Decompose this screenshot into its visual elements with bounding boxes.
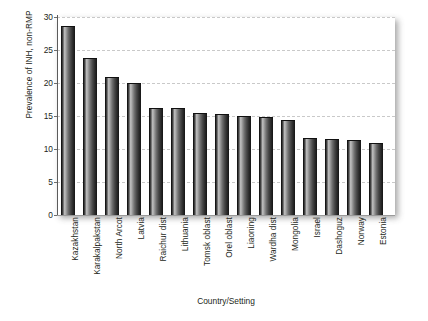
x-tick-label: Norway [357, 217, 366, 245]
y-tick-label: 30 [44, 12, 53, 22]
bar [171, 108, 185, 215]
x-tick-label: Wardha dist [269, 217, 278, 261]
y-tick-label: 0 [48, 210, 53, 220]
bar [303, 138, 317, 215]
bar [237, 116, 251, 215]
x-tick-label: Kazakhstan [71, 217, 80, 261]
bar [281, 120, 295, 215]
x-tick-label: Tomsk oblast [203, 217, 212, 266]
bar [259, 117, 273, 215]
bar [149, 108, 163, 215]
y-tick-mark [54, 215, 57, 216]
bar [347, 140, 361, 215]
x-tick-label: Lithuania [181, 217, 190, 251]
bar [369, 143, 383, 215]
plot-inner: 051015202530 [57, 17, 395, 215]
x-tick-label: Israel [313, 217, 322, 238]
x-tick-label: Latvia [137, 217, 146, 239]
y-tick-label: 15 [44, 111, 53, 121]
y-tick-label: 5 [48, 177, 53, 187]
x-tick-label: Raichur dist [159, 217, 168, 261]
x-tick-label: Mongolia [291, 217, 300, 251]
x-tick-label: Dashoguz [335, 217, 344, 255]
y-tick-label: 25 [44, 45, 53, 55]
bar [325, 139, 339, 215]
bar [215, 114, 229, 215]
x-axis-labels-group: KazakhstanKarakalpakstanNorth ArcotLatvi… [57, 217, 395, 295]
bar [105, 77, 119, 215]
bar [83, 58, 97, 215]
y-tick-label: 20 [44, 78, 53, 88]
bars-group [57, 17, 395, 215]
x-tick-label: North Arcot [115, 217, 124, 259]
y-tick-label: 10 [44, 144, 53, 154]
bar [193, 113, 207, 215]
y-axis-title: Prevalence of INH, non-RMP [25, 0, 34, 140]
x-tick-label: Orel oblast [225, 217, 234, 258]
x-tick-label: Liaoning [247, 217, 256, 249]
bar-chart-figure: Prevalence of INH, non-RMP 051015202530 … [0, 0, 428, 321]
bar [61, 26, 75, 215]
x-axis-title: Country/Setting [57, 296, 395, 306]
x-tick-label: Estonia [379, 217, 388, 245]
bar [127, 83, 141, 215]
x-tick-label: Karakalpakstan [93, 217, 102, 275]
plot-area: 051015202530 [57, 17, 395, 215]
